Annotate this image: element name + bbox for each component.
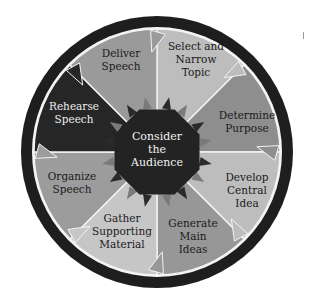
center-label-line: Consider [132, 130, 183, 143]
segment-label-line: Ideas [179, 243, 208, 255]
segment-label-line: Speech [55, 113, 94, 125]
segment-label-line: Speech [53, 183, 92, 195]
label-rehearse-speech: RehearseSpeech [49, 100, 99, 125]
center-label-line: Audience [130, 156, 183, 169]
segment-label-line: Narrow [176, 53, 217, 65]
speech-process-diagram: ConsidertheAudience Select andNarrowTopi… [0, 0, 315, 304]
segment-label-line: Develop [225, 171, 268, 183]
center-label-line: the [148, 143, 166, 156]
label-organize-speech: OrganizeSpeech [48, 170, 96, 195]
label-determine-purpose: DeterminePurpose [219, 109, 275, 134]
segment-label-line: Topic [182, 66, 211, 78]
segment-label-line: Gather [104, 212, 142, 224]
segment-label-line: Purpose [225, 122, 269, 134]
segment-label-line: Material [99, 238, 145, 250]
segment-label-line: Rehearse [49, 100, 99, 112]
segment-label-line: Idea [235, 197, 258, 209]
segment-label-line: Main [179, 230, 206, 242]
segment-label-line: Speech [102, 60, 141, 72]
segment-label-line: Select and [168, 40, 224, 52]
segment-label-line: Determine [219, 109, 275, 121]
segment-label-line: Supporting [92, 225, 152, 237]
segment-label-line: Organize [48, 170, 96, 182]
label-deliver-speech: DeliverSpeech [102, 47, 142, 72]
segment-label-line: Central [227, 184, 268, 196]
segment-label-line: Deliver [102, 47, 141, 59]
segment-label-line: Generate [168, 217, 217, 229]
